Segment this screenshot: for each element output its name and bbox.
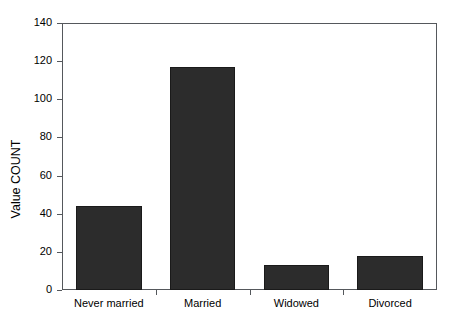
x-tick-label: Widowed: [274, 297, 319, 309]
bars-container: [62, 23, 437, 290]
x-tick-mark: [156, 290, 157, 295]
x-tick-mark: [250, 290, 251, 295]
y-tick-label: 80: [40, 130, 52, 142]
bar-chart: Value COUNT 020406080100120140 Never mar…: [0, 0, 452, 336]
y-tick-label: 20: [40, 245, 52, 257]
y-tick-mark: [57, 290, 62, 291]
x-tick-label: Married: [184, 297, 221, 309]
x-tick-label: Never married: [74, 297, 144, 309]
y-tick-label: 140: [34, 16, 52, 28]
y-tick-label: 60: [40, 169, 52, 181]
y-tick-label: 0: [46, 283, 52, 295]
x-tick-label: Divorced: [368, 297, 411, 309]
bar: [170, 67, 236, 290]
x-tick-mark: [343, 290, 344, 295]
y-tick-label: 100: [34, 92, 52, 104]
bar: [76, 206, 142, 290]
y-axis-title: Value COUNT: [9, 109, 23, 249]
y-tick-label: 120: [34, 54, 52, 66]
bar: [357, 256, 423, 290]
bar: [264, 265, 330, 290]
y-tick-label: 40: [40, 207, 52, 219]
